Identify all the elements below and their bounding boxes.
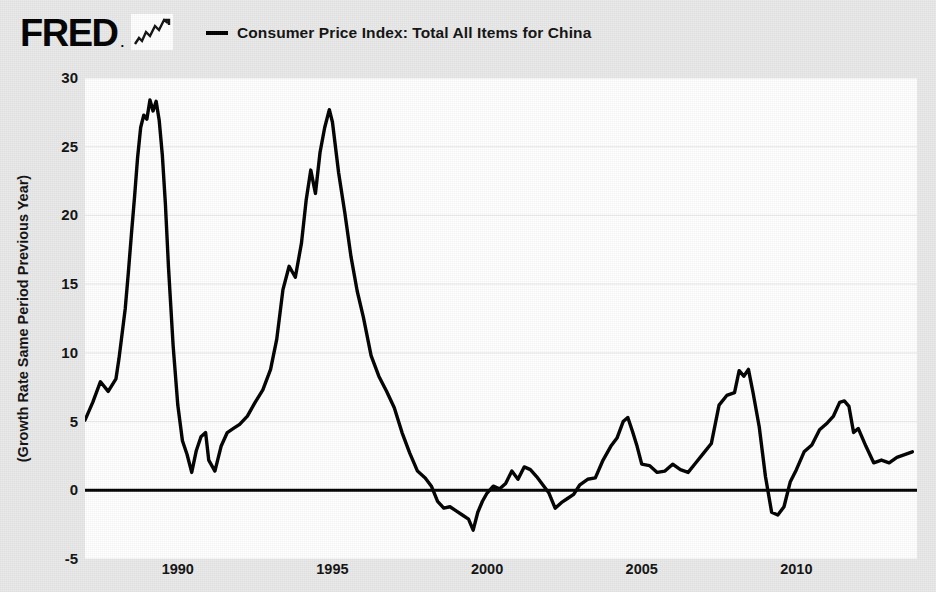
x-tick-label: 2010 <box>780 562 812 576</box>
y-tick-label: 10 <box>38 346 78 360</box>
fred-registered-dot: . <box>120 36 124 49</box>
series-path-group <box>85 100 912 530</box>
line-swatch-icon <box>206 31 228 35</box>
chart-canvas <box>85 78 917 559</box>
x-tick-label: 1995 <box>316 562 348 576</box>
y-tick-label: 20 <box>38 208 78 222</box>
y-tick-label: -5 <box>38 552 78 566</box>
x-tick-label: 2000 <box>471 562 503 576</box>
x-tick-label: 1990 <box>162 562 194 576</box>
chart-legend: Consumer Price Index: Total All Items fo… <box>206 24 591 42</box>
y-tick-label: 30 <box>38 71 78 85</box>
series-line-0 <box>85 100 912 530</box>
y-tick-label: 25 <box>38 140 78 154</box>
y-tick-label: 0 <box>38 483 78 497</box>
line-chart-icon <box>131 14 173 50</box>
chart-header: FRED . Consumer Price Index: Total All I… <box>0 0 936 66</box>
fred-wordmark: FRED <box>20 15 117 51</box>
y-tick-label: 15 <box>38 277 78 291</box>
legend-series-label: Consumer Price Index: Total All Items fo… <box>237 24 591 42</box>
y-axis-label: (Growth Rate Same Period Previous Year) <box>10 78 36 559</box>
y-tick-label: 5 <box>38 415 78 429</box>
fred-logo: FRED . <box>20 14 173 51</box>
x-tick-label: 2005 <box>626 562 658 576</box>
plot-area <box>85 78 917 559</box>
